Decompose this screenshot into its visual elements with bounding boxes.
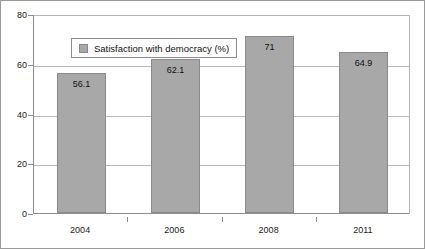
bar-chart: 020406080 56.162.17164.9 Satisfaction wi…: [0, 0, 425, 249]
y-tick-label: 0: [3, 210, 27, 219]
x-tick-label-2011: 2011: [316, 225, 410, 235]
legend-swatch-icon: [79, 44, 88, 53]
legend: Satisfaction with democracy (%): [71, 38, 237, 58]
x-axis-labels: 2004200620082011: [33, 217, 410, 241]
bar-value-label: 71: [246, 42, 293, 52]
bar-value-label: 56.1: [58, 79, 105, 89]
bar-2006: 62.1: [151, 59, 200, 213]
y-tick-label: 60: [3, 61, 27, 70]
y-tick-label: 80: [3, 11, 27, 20]
bar-2011: 64.9: [339, 52, 388, 213]
y-tick-mark: [28, 214, 33, 215]
legend-label: Satisfaction with democracy (%): [94, 43, 229, 54]
y-axis-labels: 020406080: [1, 15, 27, 214]
y-tick-label: 20: [3, 160, 27, 169]
bar-2004: 56.1: [57, 73, 106, 213]
bar-value-label: 64.9: [340, 58, 387, 68]
x-tick-mark: [127, 217, 128, 222]
x-tick-label-2006: 2006: [127, 225, 221, 235]
x-tick-label-2008: 2008: [222, 225, 316, 235]
x-tick-mark: [222, 217, 223, 222]
plot-area: 56.162.17164.9 Satisfaction with democra…: [33, 15, 410, 214]
bar-2008: 71: [245, 36, 294, 213]
bar-value-label: 62.1: [152, 65, 199, 75]
x-tick-mark: [316, 217, 317, 222]
y-tick-label: 40: [3, 111, 27, 120]
x-tick-label-2004: 2004: [33, 225, 127, 235]
